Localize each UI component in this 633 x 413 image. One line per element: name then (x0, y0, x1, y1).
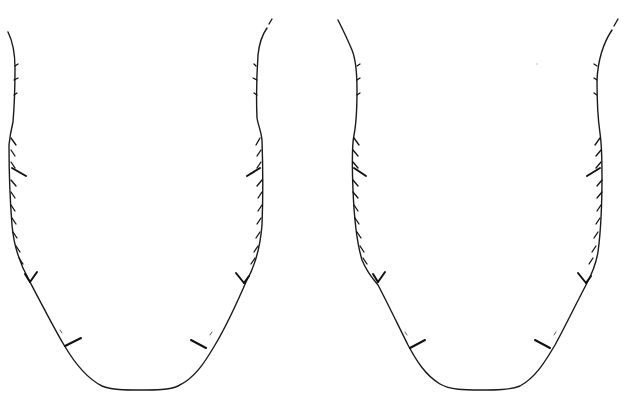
outline-drawing (0, 0, 300, 413)
outline-drawing (330, 0, 633, 413)
outline-figure-left (0, 0, 300, 413)
outline-figure-right (330, 0, 633, 413)
